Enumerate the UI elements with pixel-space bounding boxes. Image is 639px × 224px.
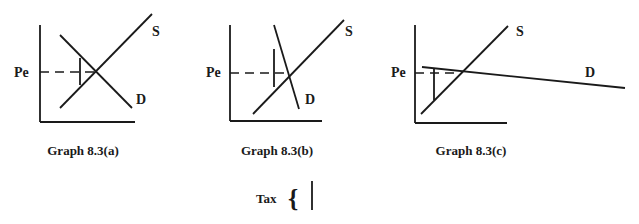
graph-b-s-label: S (345, 24, 353, 39)
graph-b-supply-curve (253, 20, 344, 114)
brace-icon: { (288, 184, 298, 213)
graph-c-s-label: S (516, 24, 524, 39)
graph-b-demand-curve (274, 25, 299, 109)
tax-incidence-diagram: Pe S D Graph 8.3(a) Pe S D Graph 8.3(b) … (0, 0, 639, 224)
graph-a-s-label: S (152, 24, 160, 39)
graph-c-title: Graph 8.3(c) (436, 143, 507, 158)
graph-a: Pe S D Graph 8.3(a) (14, 14, 160, 158)
graph-b-d-label: D (305, 92, 315, 107)
tax-label: Tax (256, 191, 277, 206)
graph-b: Pe S D Graph 8.3(b) (206, 20, 353, 158)
graph-c-pe-label: Pe (391, 65, 406, 80)
graph-c: Pe S D Graph 8.3(c) (391, 24, 625, 158)
graph-c-d-label: D (585, 65, 595, 80)
graph-b-pe-label: Pe (206, 65, 221, 80)
graph-b-title: Graph 8.3(b) (241, 143, 313, 158)
graph-a-title: Graph 8.3(a) (47, 143, 119, 158)
graph-a-d-label: D (136, 92, 146, 107)
graph-a-pe-label: Pe (14, 65, 29, 80)
tax-legend: Tax { (256, 181, 312, 213)
